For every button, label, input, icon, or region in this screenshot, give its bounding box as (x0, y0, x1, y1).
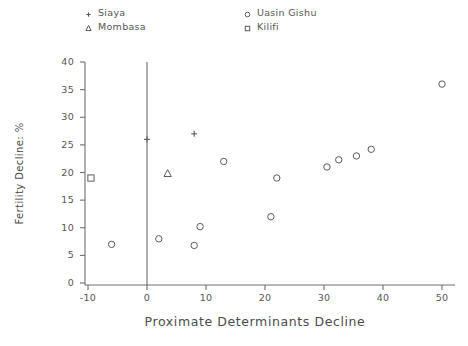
series-mombasa (164, 170, 171, 177)
x-tick-label: 30 (309, 292, 339, 303)
x-axis-title: Proximate Determinants Decline (60, 314, 450, 329)
data-point-circle (156, 236, 162, 242)
y-tick-label: 25 (52, 139, 74, 150)
x-tick-label: 50 (427, 292, 457, 303)
x-tick-label: 10 (191, 292, 221, 303)
series-uasin-gishu (108, 81, 445, 249)
y-tick-label: 35 (52, 84, 74, 95)
y-tick-label: 0 (52, 277, 74, 288)
scatter-plot-figure: SiayaMombasaUasin GishuKilifi 0510152025… (0, 0, 468, 346)
data-point-circle (268, 214, 274, 220)
y-tick-label: 40 (52, 56, 74, 67)
data-point-triangle (164, 170, 171, 177)
data-point-circle (274, 175, 280, 181)
x-tick-label: -10 (73, 292, 103, 303)
y-tick-label: 20 (52, 167, 74, 178)
series-kilifi (88, 175, 94, 181)
data-point-square (88, 175, 94, 181)
data-point-circle (221, 158, 227, 164)
y-tick-label: 5 (52, 249, 74, 260)
x-tick-label: 20 (250, 292, 280, 303)
y-tick-label: 10 (52, 222, 74, 233)
y-tick-label: 30 (52, 111, 74, 122)
x-tick-label: 40 (368, 292, 398, 303)
y-tick-label: 15 (52, 194, 74, 205)
data-point-circle (439, 81, 445, 87)
data-point-circle (197, 223, 203, 229)
data-point-circle (368, 146, 374, 152)
data-point-circle (353, 153, 359, 159)
y-axis-title: Fertility Decline: % (14, 94, 25, 254)
x-tick-label: 0 (132, 292, 162, 303)
data-point-circle (108, 241, 114, 247)
series-siaya (144, 131, 197, 143)
data-point-circle (191, 242, 197, 248)
data-point-circle (336, 157, 342, 163)
data-point-circle (324, 164, 330, 170)
